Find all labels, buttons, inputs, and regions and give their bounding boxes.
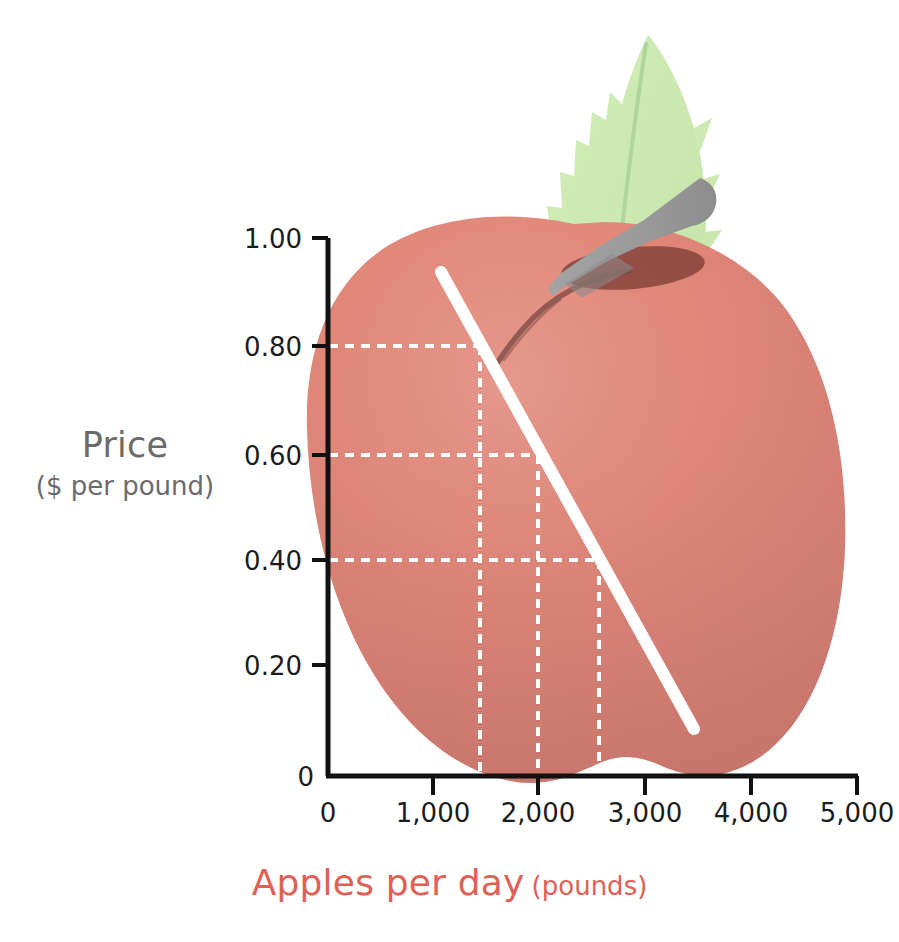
apple-demand-curve-figure: 1.00 0.80 0.60 0.40 0.20 0 0 1,000 2,000… <box>0 0 899 942</box>
x-tick-label-5: 4,000 <box>714 798 788 828</box>
y-axis-title-main: Price <box>0 424 250 468</box>
x-axis-title-main: Apples per day <box>252 862 525 903</box>
demand-curve-line <box>441 272 694 729</box>
y-tick-label-3: 0.60 <box>244 441 302 471</box>
y-axis-title: Price ($ per pound) <box>0 424 250 502</box>
y-tick-label-5: 0.20 <box>244 651 302 681</box>
x-tick-labels: 0 1,000 2,000 3,000 4,000 5,000 <box>320 798 894 828</box>
axis-lines <box>326 238 858 776</box>
y-tick-label-1: 1.00 <box>244 224 302 254</box>
x-tick-label-1: 0 <box>320 798 337 828</box>
y-tick-label-2: 0.80 <box>244 332 302 362</box>
y-tick-labels: 1.00 0.80 0.60 0.40 0.20 0 <box>244 224 314 792</box>
x-tick-label-4: 3,000 <box>608 798 682 828</box>
y-tick-label-6: 0 <box>297 762 314 792</box>
y-tick-label-4: 0.40 <box>244 546 302 576</box>
x-tick-label-2: 1,000 <box>396 798 470 828</box>
x-tick-label-3: 2,000 <box>501 798 575 828</box>
x-tick-label-6: 5,000 <box>820 798 894 828</box>
x-axis-title-sub: (pounds) <box>532 871 648 901</box>
x-axis-title: Apples per day(pounds) <box>0 862 899 903</box>
gridlines <box>329 346 601 776</box>
x-tick-marks <box>433 776 857 795</box>
y-axis-title-sub: ($ per pound) <box>0 470 250 503</box>
